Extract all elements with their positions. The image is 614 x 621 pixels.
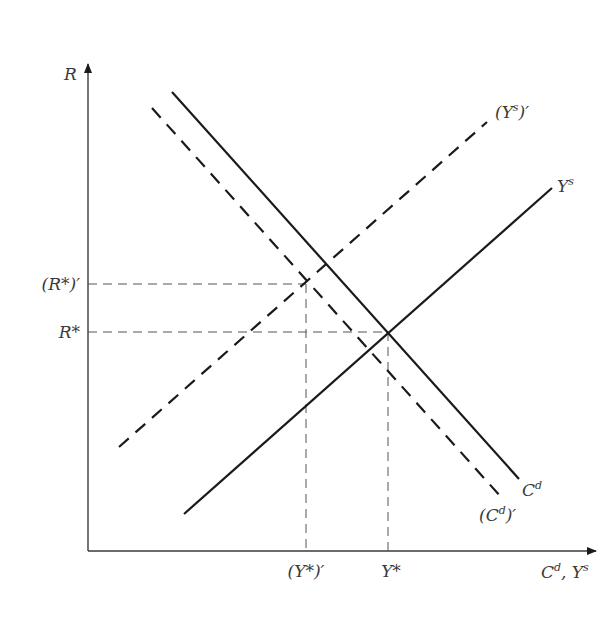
ys-prime-curve	[119, 122, 487, 447]
diagram-canvas: R Cd, Ys (Ys)′ Ys Cd (Cd)′ (R*)′ R* (Y*)…	[0, 0, 614, 621]
x-axis-label: Cd, Ys	[541, 561, 589, 582]
cd-prime-label: (Cd)′	[479, 504, 516, 525]
y-star-label: Y*	[381, 561, 401, 581]
ys-prime-label: (Ys)′	[495, 101, 529, 122]
ys-label: Ys	[557, 175, 574, 196]
y-star-prime-label: (Y*)′	[288, 561, 325, 581]
r-star-prime-label: (R*)′	[42, 274, 81, 294]
cd-label: Cd	[522, 479, 542, 500]
y-axis-label: R	[63, 64, 77, 84]
r-star-label: R*	[58, 322, 81, 342]
cd-prime-curve	[152, 108, 501, 497]
cd-curve	[172, 92, 519, 479]
ys-curve	[184, 188, 552, 514]
